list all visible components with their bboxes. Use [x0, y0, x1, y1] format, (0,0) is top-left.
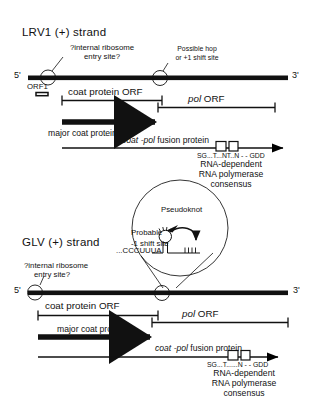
glv-motif-caption-line3: consensus	[190, 389, 298, 398]
glv-fusion-protein-label-italic: coat -pol	[155, 343, 188, 353]
lrv1-ires-label-line1: ?internal ribosome	[47, 44, 157, 52]
probable-shift-site-line1: Probable	[131, 229, 162, 237]
glv-fusion-protein-label: coat -pol fusion protein	[155, 344, 242, 353]
lrv1-pol-orf-label-italic: pol	[188, 93, 201, 104]
lrv1-five-prime-label: 5'	[14, 71, 21, 81]
lrv1-hop-label-line1: Possible hop	[152, 45, 242, 52]
glv-ires-label-line1: ?internal ribosome	[24, 262, 88, 270]
glv-five-prime-label: 5'	[14, 286, 21, 296]
lrv1-orf1-label: ORF1	[27, 83, 48, 91]
pseudoknot-sequence: ...CCCUUUA	[116, 247, 161, 255]
lrv1-genome-line	[28, 76, 288, 81]
lrv1-fusion-protein-label: coat -pol fusion protein	[122, 136, 209, 145]
lrv1-hop-label-line2: or +1 shift site	[152, 54, 242, 61]
glv-coat-orf-bar	[38, 311, 158, 321]
figure-canvas: LRV1 (+) strand ?internal ribosome entry…	[0, 0, 321, 406]
glv-coat-orf-label: coat protein ORF	[45, 301, 120, 311]
lrv1-three-prime-label: 3'	[292, 71, 299, 81]
lrv1-major-coat-protein-label: major coat protein	[48, 129, 117, 138]
glv-pol-orf-label-rest: ORF	[198, 308, 219, 319]
lrv1-hop-leader	[163, 63, 168, 71]
lrv1-motif-caption-line3: consensus	[177, 180, 285, 189]
lrv1-pol-orf-label: pol ORF	[188, 94, 225, 104]
pseudoknot-label: Pseudoknot	[161, 206, 202, 214]
lrv1-fusion-protein-label-italic: coat -pol	[122, 135, 155, 145]
glv-genome-line	[28, 291, 288, 296]
lrv1-motif-caption-line1: RNA-dependent	[177, 160, 285, 169]
lrv1-pol-orf-label-rest: ORF	[204, 93, 225, 104]
glv-ires-label-line2: entry site?	[34, 271, 70, 279]
glv-pol-orf-label-italic: pol	[182, 308, 195, 319]
glv-panel-title: GLV (+) strand	[22, 236, 100, 248]
lrv1-coat-orf-label: coat protein ORF	[68, 87, 143, 97]
lrv1-fusion-protein-label-rest: fusion protein	[157, 135, 209, 145]
lrv1-motif-caption-line2: RNA polymerase	[177, 170, 285, 179]
glv-pol-orf-label: pol ORF	[182, 309, 219, 319]
glv-pol-orf-bar	[152, 318, 288, 328]
glv-major-coat-protein-label: major coat protein	[57, 325, 126, 334]
glv-motif-caption-line1: RNA-dependent	[190, 369, 298, 378]
lrv1-orf1-marker	[36, 93, 48, 96]
lrv1-panel-title: LRV1 (+) strand	[22, 26, 106, 38]
glv-fusion-protein-label-rest: fusion protein	[190, 343, 242, 353]
lrv1-ires-label-line2: entry site?	[47, 53, 157, 61]
glv-three-prime-label: 3'	[293, 286, 300, 296]
glv-motif-caption-line2: RNA polymerase	[190, 379, 298, 388]
